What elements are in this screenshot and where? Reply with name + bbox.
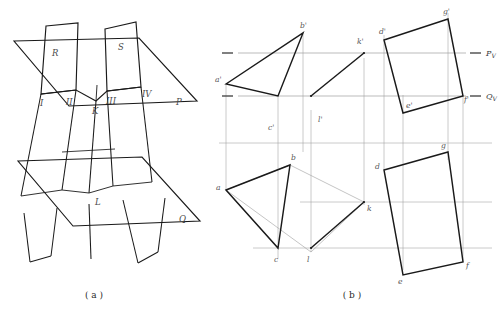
label-plane-p: P	[175, 97, 182, 107]
tail-line-5	[158, 198, 165, 252]
label-d-prime: d'	[379, 27, 386, 36]
tail-line-1	[24, 213, 30, 262]
front-view-line-kl	[311, 53, 364, 96]
label-point-1: I	[39, 98, 44, 108]
label-point-k: K	[91, 106, 99, 116]
intersection-polyline-upper	[41, 87, 141, 101]
figure-b-projection: a' b' c' k' l' d' g' f' e' a b c k l d g…	[215, 7, 498, 286]
descriptive-geometry-svg: R S I II K III IV P L Q	[0, 0, 502, 314]
top-view-point-l-dot	[310, 247, 312, 249]
label-g: g	[441, 141, 446, 150]
top-view-point-k-dot	[363, 201, 365, 203]
top-view-triangle-abc	[226, 165, 290, 248]
plane-q-lower-horizontal	[18, 157, 200, 226]
intersection-polyline-lower	[21, 182, 152, 196]
label-k-prime: k'	[357, 37, 364, 46]
label-l: l	[307, 255, 310, 264]
auxiliary-polyline-abkl	[226, 165, 364, 252]
tail-line-1b	[30, 256, 51, 262]
figure-a-pictorial: R S I II K III IV P L Q	[14, 22, 200, 263]
label-trace-qv-sub: V	[493, 95, 498, 102]
top-view-quad-defg	[384, 152, 463, 275]
label-c: c	[274, 255, 279, 264]
edge-k-vertical	[96, 85, 97, 101]
label-plane-q: Q	[179, 214, 186, 224]
tail-line-3	[89, 204, 91, 259]
front-view-quad-defg	[384, 19, 463, 113]
label-d: d	[375, 162, 380, 171]
label-b-prime: b'	[300, 21, 307, 30]
top-view-line-kl	[311, 202, 364, 248]
construction-lines	[219, 13, 492, 270]
label-g-prime: g'	[443, 7, 450, 16]
label-c-prime: c'	[268, 123, 274, 132]
caption-b: ( b )	[343, 290, 362, 300]
technical-drawing-figure: R S I II K III IV P L Q	[0, 0, 502, 314]
label-point-2: II	[65, 97, 73, 107]
plane-traces	[222, 53, 481, 96]
label-b: b	[291, 153, 296, 162]
inner-horizontal-connector	[62, 149, 115, 152]
tail-line-2	[51, 208, 57, 256]
label-trace-qv: QV	[486, 92, 498, 102]
auxiliary-outline-top-view	[226, 165, 364, 252]
tail-line-4	[123, 200, 138, 263]
label-e: e	[398, 277, 403, 286]
plane-s-quad	[105, 22, 141, 91]
label-e-prime: e'	[406, 101, 413, 110]
tail-line-4b	[138, 252, 158, 263]
label-k: k	[367, 204, 372, 213]
front-view-point-l-dot	[310, 95, 312, 97]
caption-a: ( a )	[85, 290, 103, 300]
label-l-prime: l'	[318, 115, 323, 124]
front-view-point-k-dot	[363, 52, 365, 54]
label-a-prime: a'	[215, 75, 222, 84]
front-view-triangle-abc	[226, 33, 303, 96]
label-point-3: III	[105, 96, 117, 106]
plane-r-quad	[41, 23, 78, 94]
label-plane-r: R	[51, 48, 59, 58]
label-trace-pv-sub: V	[491, 52, 496, 59]
label-trace-pv: PV	[485, 49, 496, 59]
prism-line-5	[141, 87, 152, 182]
label-f: f	[465, 261, 470, 270]
label-a: a	[216, 183, 221, 192]
label-point-4: IV	[141, 89, 152, 99]
prism-line-1	[21, 94, 41, 196]
label-plane-s: S	[118, 42, 124, 52]
label-point-l: L	[94, 197, 101, 207]
label-f-prime: f'	[463, 95, 469, 104]
